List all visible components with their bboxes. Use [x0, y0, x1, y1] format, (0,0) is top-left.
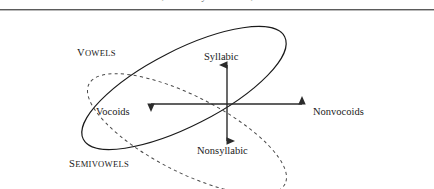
semivowels-label-rest: EMIVOWELS: [75, 159, 129, 169]
caption-clip: nonvocoids, whether syllabic or not, are…: [0, 0, 434, 9]
vowels-initial-cap: V: [77, 47, 85, 58]
diagram-svg: [0, 14, 434, 189]
linguistics-venn-diagram: VOWELS SEMIVOWELS Syllabic Nonsyllabic V…: [0, 14, 434, 189]
vowels-label-rest: OWELS: [85, 48, 116, 58]
horizontal-rule: [0, 9, 434, 11]
caption-text: nonvocoids, whether syllabic or not, are…: [0, 0, 434, 3]
axis-cross: [151, 65, 302, 141]
region-label-semivowels: SEMIVOWELS: [69, 158, 129, 169]
axis-label-nonvocoids: Nonvocoids: [313, 106, 364, 117]
vowels-ellipse: [66, 14, 302, 173]
axis-label-syllabic: Syllabic: [204, 51, 238, 62]
region-label-vowels: VOWELS: [77, 47, 116, 58]
axis-label-vocoids: Vocoids: [96, 106, 130, 117]
diagram-page: nonvocoids, whether syllabic or not, are…: [0, 0, 434, 189]
axis-label-nonsyllabic: Nonsyllabic: [197, 145, 248, 156]
